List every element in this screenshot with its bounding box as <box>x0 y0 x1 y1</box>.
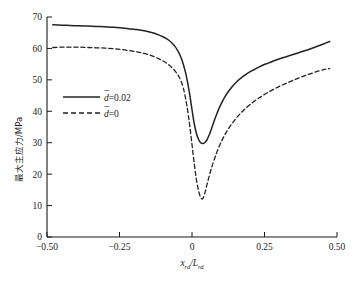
legend-overbar-solid: – <box>104 85 110 95</box>
y-tick-label: 60 <box>33 44 43 54</box>
legend-overbar-dashed: – <box>104 101 110 111</box>
chart-figure: 010203040506070 −0.50−0.2500.250.50 d=0.… <box>0 0 357 288</box>
y-tick-label: 30 <box>33 138 43 148</box>
x-tick-label: 0 <box>190 242 195 252</box>
x-tick-label: 0.50 <box>329 242 346 252</box>
x-tick-label: −0.25 <box>109 242 131 252</box>
y-tick-label: 20 <box>33 170 43 180</box>
y-axis-title: 最大主应力/MPa <box>14 117 24 182</box>
max-principal-stress-line-chart: 010203040506070 −0.50−0.2500.250.50 d=0.… <box>0 0 357 288</box>
y-tick-label: 0 <box>37 232 42 242</box>
x-tick-label: −0.50 <box>36 242 58 252</box>
y-tick-label: 70 <box>33 12 43 22</box>
x-tick-label: 0.25 <box>256 242 273 252</box>
figure-caption <box>0 281 357 288</box>
y-tick-label: 10 <box>33 201 43 211</box>
y-tick-label: 40 <box>33 107 43 117</box>
y-tick-label: 50 <box>33 75 43 85</box>
